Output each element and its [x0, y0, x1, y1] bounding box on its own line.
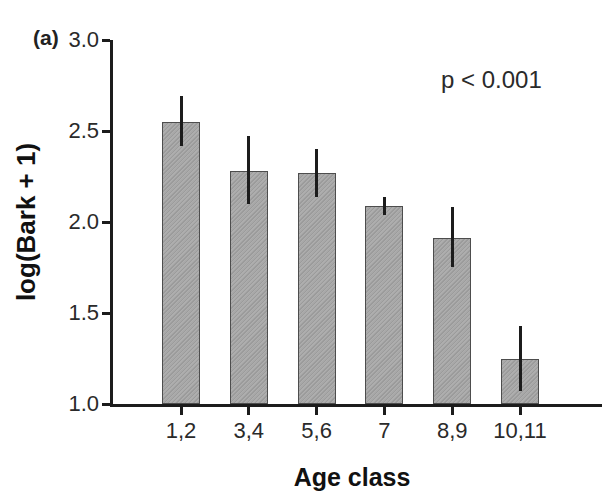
- x-axis-tick: [315, 407, 318, 415]
- y-axis-tick-label: 3.0: [53, 28, 99, 52]
- y-axis-tick: [102, 312, 110, 315]
- x-axis-tick: [383, 407, 386, 415]
- x-axis-title: Age class: [232, 463, 472, 492]
- y-axis-tick-label: 1.0: [53, 392, 99, 416]
- x-axis-tick: [451, 407, 454, 415]
- bar: [365, 206, 403, 404]
- x-axis-tick-label: 5,6: [282, 418, 352, 444]
- y-axis-tick-label: 1.5: [53, 301, 99, 325]
- x-axis-tick-label: 8,9: [417, 418, 487, 444]
- bar-chart-figure: (a) p < 0.001 log(Bark + 1) 1.01.52.02.5…: [0, 0, 611, 493]
- x-axis-tick: [519, 407, 522, 415]
- x-axis-tick-label: 7: [349, 418, 419, 444]
- x-axis-tick-label: 1,2: [146, 418, 216, 444]
- error-bar: [519, 326, 522, 392]
- x-axis-tick: [247, 407, 250, 415]
- bar: [298, 173, 336, 404]
- y-axis-tick: [102, 403, 110, 406]
- error-bar: [315, 149, 318, 196]
- x-axis-tick: [180, 407, 183, 415]
- y-axis-tick: [102, 221, 110, 224]
- y-axis-tick-label: 2.0: [53, 210, 99, 234]
- error-bar: [247, 136, 250, 203]
- y-axis-tick: [102, 39, 110, 42]
- y-axis-tick: [102, 130, 110, 133]
- error-bar: [180, 96, 183, 145]
- bar: [162, 122, 200, 404]
- error-bar: [383, 197, 386, 215]
- y-axis-tick-label: 2.5: [53, 119, 99, 143]
- x-axis-tick-label: 10,11: [485, 418, 555, 444]
- error-bar: [451, 207, 454, 267]
- x-axis-tick-label: 3,4: [214, 418, 284, 444]
- bar: [230, 171, 268, 404]
- plot-area: 1.01.52.02.53.01,23,45,678,910,11: [110, 40, 602, 407]
- y-axis-title: log(Bark + 1): [11, 143, 42, 301]
